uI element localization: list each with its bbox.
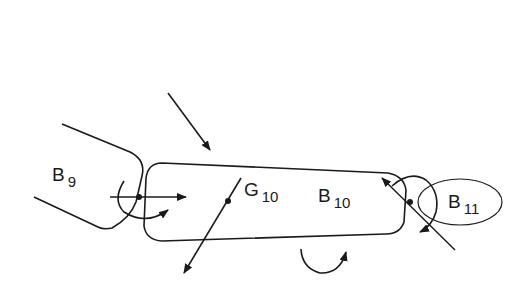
body-moment-arc: [301, 249, 346, 273]
gravity-force-arrow: [184, 178, 241, 273]
label-b11: B11: [448, 191, 479, 217]
joint-moment-arc-left: [118, 181, 168, 219]
joint-force-arrow-right: [382, 178, 455, 250]
centroid-point-g10: [225, 198, 231, 204]
free-body-diagram: B9 G10 B10 B11: [0, 0, 530, 297]
label-g10: G10: [244, 179, 278, 205]
joint-point-left: [136, 194, 142, 200]
label-b10: B10: [318, 185, 350, 211]
external-force-arrow: [168, 93, 210, 150]
joint-point-right: [407, 199, 413, 205]
joint-moment-arc-right: [392, 176, 437, 232]
label-b9: B9: [52, 164, 76, 190]
